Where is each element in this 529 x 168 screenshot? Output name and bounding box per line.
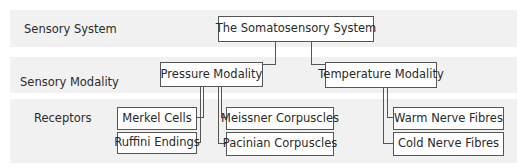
level-label-sensory-modality: Sensory Modality [20,77,119,89]
node-somatosensory-system: The Somatosensory System [218,16,374,42]
node-pacinian-corpuscles: Pacinian Corpuscles [226,132,334,156]
node-warm-nerve-fibres: Warm Nerve Fibres [393,107,504,130]
node-temperature-modality: Temperature Modality [325,62,437,88]
node-cold-nerve-fibres: Cold Nerve Fibres [393,132,504,156]
level-label-receptors: Receptors [34,113,92,125]
node-pressure-modality: Pressure Modality [160,62,263,87]
node-meissner-corpuscles: Meissner Corpuscles [226,107,334,130]
node-ruffini-endings: Ruffini Endings [117,132,197,154]
level-label-sensory-system: Sensory System [24,24,117,36]
node-merkel-cells: Merkel Cells [117,107,197,130]
